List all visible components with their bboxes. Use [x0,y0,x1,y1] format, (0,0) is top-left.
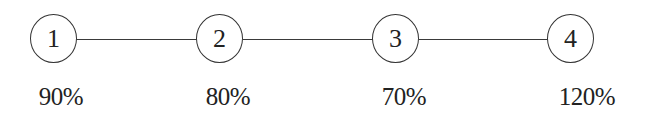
node-4: 4 [547,14,594,63]
node-chain-diagram: 1 2 3 4 90% 80% 70% 120% [0,0,646,114]
node-4-percent: 120% [559,84,615,110]
edge-1-2 [76,39,197,40]
node-2-percent: 80% [206,84,250,110]
node-3-label: 3 [389,26,402,52]
node-3: 3 [372,14,419,63]
node-1-label: 1 [47,26,60,52]
edge-3-4 [419,39,548,40]
node-4-label: 4 [564,26,577,52]
edge-2-3 [243,39,373,40]
node-2: 2 [196,14,243,63]
node-1: 1 [30,14,77,63]
node-3-percent: 70% [382,84,426,110]
node-2-label: 2 [213,26,226,52]
node-1-percent: 90% [39,84,83,110]
